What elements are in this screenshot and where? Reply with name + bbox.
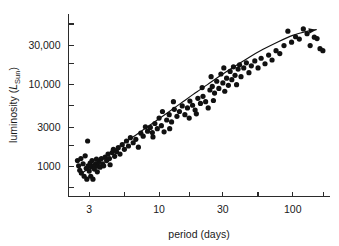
scatter-plot: 1000300010,00030,000 31030100 period (da… [0, 0, 339, 246]
data-point [164, 117, 169, 122]
data-point [150, 130, 155, 135]
data-point [177, 109, 182, 114]
data-point [269, 57, 274, 62]
data-point [216, 86, 221, 91]
data-point [203, 99, 208, 104]
data-point [210, 84, 215, 89]
data-point [136, 145, 141, 150]
data-point [101, 163, 106, 168]
data-point [224, 76, 229, 81]
data-point [266, 52, 271, 57]
data-point [194, 111, 199, 116]
y-tick-label: 1000 [37, 160, 61, 172]
data-point [187, 116, 192, 121]
data-point [262, 61, 267, 66]
data-point [229, 77, 234, 82]
data-point [301, 26, 306, 31]
data-point [209, 74, 214, 79]
x-tick-label: 3 [86, 203, 92, 215]
data-point [126, 143, 131, 148]
data-point [281, 43, 286, 48]
data-point [221, 65, 226, 70]
data-points [75, 26, 326, 181]
data-point [212, 90, 217, 95]
y-axis-title-suffix: ) [7, 67, 19, 71]
data-point [277, 51, 282, 56]
data-point [308, 43, 313, 48]
data-point [220, 80, 225, 85]
x-axis-tick-labels: 31030100 [86, 203, 301, 215]
data-point [80, 161, 85, 166]
data-point [297, 37, 302, 42]
data-point [249, 63, 254, 68]
data-point [160, 109, 165, 114]
data-point [206, 105, 211, 110]
y-axis-title-prefix: luminosity ( [7, 89, 19, 143]
data-point [255, 65, 260, 70]
data-point [244, 60, 249, 65]
data-point [122, 147, 127, 152]
fit-curve-arrowhead [308, 28, 316, 34]
data-point [285, 29, 290, 34]
data-point [85, 138, 90, 143]
x-tick-label: 10 [153, 203, 165, 215]
data-point [190, 103, 195, 108]
data-point [185, 105, 190, 110]
data-point [289, 40, 294, 45]
data-point [95, 169, 100, 174]
data-point [226, 83, 231, 88]
data-point [259, 56, 264, 61]
y-tick-label: 3000 [37, 121, 61, 133]
svg-text:luminosity (LSun): luminosity (LSun) [7, 67, 22, 143]
data-point [112, 154, 117, 159]
x-tick-label: 30 [217, 203, 229, 215]
data-point [320, 48, 325, 53]
x-axis-ticks [89, 192, 323, 197]
y-axis-title-subscript: Sun [13, 71, 22, 84]
x-tick-label: 100 [284, 203, 302, 215]
data-point [107, 156, 112, 161]
data-point [90, 177, 95, 182]
data-point [108, 162, 113, 167]
data-point [150, 134, 155, 139]
data-point [161, 129, 166, 134]
data-point [246, 70, 251, 75]
data-point [234, 82, 239, 87]
data-point [76, 163, 81, 168]
data-point [232, 73, 237, 78]
data-point [182, 112, 187, 117]
data-point [171, 99, 176, 104]
data-point [83, 153, 88, 158]
data-point [200, 94, 205, 99]
data-point [238, 74, 243, 79]
y-axis-tick-labels: 1000300010,00030,000 [28, 39, 60, 172]
data-point [195, 96, 200, 101]
data-point [241, 65, 246, 70]
y-tick-label: 10,000 [28, 78, 60, 90]
data-point [211, 98, 216, 103]
y-axis-ticks [69, 24, 74, 188]
data-point [141, 134, 146, 139]
data-point [169, 119, 174, 124]
data-point [198, 101, 203, 106]
data-point [117, 151, 122, 156]
data-point [159, 123, 164, 128]
data-point [252, 58, 257, 63]
chart-figure: 1000300010,00030,000 31030100 period (da… [0, 0, 339, 246]
data-point [222, 89, 227, 94]
y-axis-title: luminosity (LSun) [7, 67, 22, 143]
data-point [314, 36, 319, 41]
x-axis-title: period (days) [168, 228, 229, 240]
data-point [167, 126, 172, 131]
y-tick-label: 30,000 [28, 39, 60, 51]
data-point [174, 114, 179, 119]
data-point [78, 156, 83, 161]
data-point [133, 137, 138, 142]
